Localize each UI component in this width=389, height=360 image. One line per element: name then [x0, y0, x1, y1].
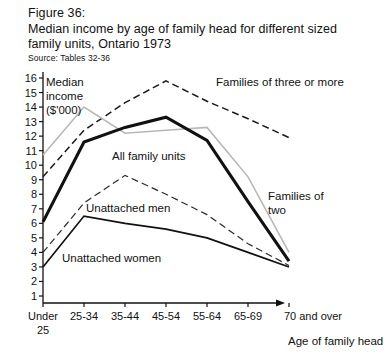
series-label-0: Families of three or more: [216, 76, 344, 88]
x-axis: Under25-3435-4445-5455-6465-6970 and ove…: [28, 300, 342, 337]
series-label-1: Families of: [268, 190, 324, 202]
y-axis-tick-label: 8: [31, 188, 37, 200]
figure-page: Figure 36: Median income by age of famil…: [0, 0, 389, 360]
x-axis-tick-label: Under: [28, 310, 58, 322]
y-axis-tick-label: 7: [31, 203, 37, 215]
x-axis-tick-label: 25-34: [70, 310, 98, 322]
y-axis-tick-label: 15: [25, 87, 37, 99]
y-axis-tick-label: 1: [31, 290, 37, 302]
x-axis-caption: Age of family head: [288, 335, 383, 347]
y-axis-label-line1: Median: [46, 76, 84, 88]
x-axis-tick-label: 45-54: [152, 310, 180, 322]
chart-plot-area: 16151413121110987654321 Under25-3435-444…: [0, 0, 389, 360]
x-axis-arrow: [276, 300, 285, 307]
y-axis-tick-label: 11: [26, 145, 37, 157]
series-labels-group: Families of three or moreFamilies oftwoA…: [62, 76, 344, 264]
series-line-1: [43, 107, 289, 252]
y-axis-tick-label: 14: [25, 101, 37, 113]
x-axis-tick-label: 70 and over: [284, 310, 342, 322]
y-axis-tick-label: 10: [25, 159, 37, 171]
y-axis-tick-label: 5: [31, 232, 37, 244]
y-axis-tick-label: 16: [25, 72, 37, 84]
series-line-2: [43, 117, 289, 261]
y-axis-label-line2: income: [46, 90, 83, 102]
series-label-3: Unattached men: [86, 202, 170, 214]
y-axis-tick-label: 6: [31, 217, 37, 229]
series-label-1-line2: two: [268, 204, 286, 216]
x-axis-tick-label-under25-second-line: 25: [37, 324, 49, 336]
line-chart: 16151413121110987654321 Under25-3435-444…: [0, 0, 389, 360]
y-axis: 16151413121110987654321: [25, 72, 43, 303]
x-axis-tick-label: 65-69: [234, 310, 262, 322]
y-axis-tick-label: 3: [31, 261, 37, 273]
y-axis-tick-label: 13: [25, 116, 37, 128]
y-axis-tick-label: 9: [31, 174, 37, 186]
y-axis-tick-label: 12: [25, 130, 37, 142]
y-axis-tick-label: 2: [31, 275, 37, 287]
series-label-2: All family units: [112, 150, 186, 162]
series-label-4: Unattached women: [62, 252, 161, 264]
y-axis-tick-label: 4: [31, 246, 37, 258]
x-axis-tick-label: 35-44: [111, 310, 139, 322]
x-axis-tick-label: 55-64: [193, 310, 221, 322]
y-axis-label-line3: ($'000): [46, 104, 82, 116]
